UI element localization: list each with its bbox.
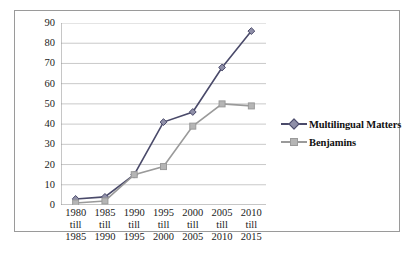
x-tick-line: 2015 <box>229 231 273 243</box>
data-point-1-3 <box>161 164 167 170</box>
data-point-1-2 <box>131 172 137 178</box>
y-axis-tick-40: 40 <box>29 119 55 130</box>
y-axis-tick-10: 10 <box>29 180 55 191</box>
y-axis-tick-60: 60 <box>29 78 55 89</box>
legend-label-0: Multilingual Matters <box>309 119 401 130</box>
y-axis-tick-70: 70 <box>29 58 55 69</box>
y-axis-tick-50: 50 <box>29 99 55 110</box>
data-point-1-6 <box>248 103 254 109</box>
plot-svg <box>61 23 266 205</box>
y-axis-tick-20: 20 <box>29 159 55 170</box>
chart-frame: 0102030405060708090 1980till19851985till… <box>14 10 400 232</box>
legend-key-square-icon <box>281 136 307 148</box>
y-axis-tick-30: 30 <box>29 139 55 150</box>
chart-legend: Multilingual MattersBenjamins <box>281 115 399 151</box>
data-point-1-4 <box>190 123 196 129</box>
x-tick-line: till <box>229 219 273 231</box>
series-line-0 <box>76 31 252 199</box>
legend-key-diamond-icon <box>281 118 307 130</box>
x-tick-line: 2010 <box>229 207 273 219</box>
y-axis-tick-labels: 0102030405060708090 <box>23 23 55 205</box>
y-axis-tick-80: 80 <box>29 38 55 49</box>
legend-item-0[interactable]: Multilingual Matters <box>281 115 399 133</box>
data-point-1-5 <box>219 101 225 107</box>
x-axis-tick-labels: 1980till19851985till19901990till19951995… <box>61 207 266 251</box>
x-axis-tick-label-6: 2010till2015 <box>229 207 273 243</box>
data-point-1-0 <box>73 200 79 205</box>
y-axis-tick-90: 90 <box>29 18 55 29</box>
legend-item-1[interactable]: Benjamins <box>281 133 399 151</box>
legend-label-1: Benjamins <box>309 137 356 148</box>
plot-area <box>61 23 266 205</box>
legend-marker-diamond-icon <box>288 118 299 129</box>
data-point-1-1 <box>102 198 108 204</box>
y-axis-tick-0: 0 <box>29 200 55 211</box>
legend-marker-square-icon <box>290 138 298 146</box>
